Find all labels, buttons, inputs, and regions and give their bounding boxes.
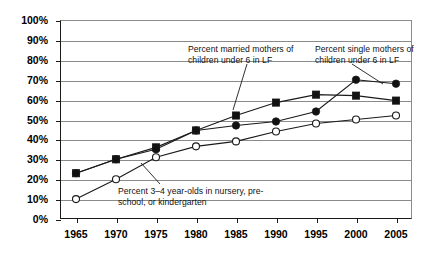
data-point-marker xyxy=(72,170,79,177)
x-tick-label: 1980 xyxy=(184,228,207,240)
x-tick-label: 1970 xyxy=(104,228,127,240)
y-tick-label: 80% xyxy=(27,54,48,66)
data-point-marker xyxy=(112,156,119,163)
data-point-marker xyxy=(313,120,320,127)
y-tick-label: 30% xyxy=(27,153,48,165)
x-tick-label: 2000 xyxy=(344,228,367,240)
y-tick-label: 20% xyxy=(27,173,48,185)
data-point-marker xyxy=(232,122,239,129)
x-tick-label: 1975 xyxy=(144,228,167,240)
data-point-marker xyxy=(233,138,240,145)
data-point-marker xyxy=(232,112,239,119)
data-point-marker xyxy=(353,116,360,123)
data-point-marker xyxy=(192,127,199,134)
y-tick-label: 0% xyxy=(33,213,48,225)
data-point-marker xyxy=(73,196,80,203)
data-point-marker xyxy=(312,91,319,98)
x-tick-label: 2005 xyxy=(384,228,407,240)
data-point-marker xyxy=(153,154,160,161)
annotation-single-mothers: Percent single mothers of children under… xyxy=(315,44,431,66)
data-point-marker xyxy=(113,176,120,183)
data-point-marker xyxy=(272,118,279,125)
data-point-marker xyxy=(393,112,400,119)
data-point-marker xyxy=(273,128,280,135)
x-tick-label: 1985 xyxy=(224,228,247,240)
annotation-nursery-preschool: Percent 3–4 year-olds in nursery, pre- s… xyxy=(118,186,298,208)
y-tick-label: 100% xyxy=(21,14,48,26)
y-tick-label: 60% xyxy=(27,94,48,106)
data-point-marker xyxy=(392,97,399,104)
y-tick-label: 10% xyxy=(27,193,48,205)
x-tick-label: 1995 xyxy=(304,228,327,240)
data-point-marker xyxy=(352,92,359,99)
data-point-marker xyxy=(272,99,279,106)
x-tick-label: 1965 xyxy=(64,228,87,240)
y-axis-labels: 0%10%20%30%40%50%60%70%80%90%100% xyxy=(0,20,56,219)
x-tick-label: 1990 xyxy=(264,228,287,240)
annotation-married-mothers: Percent married mothers of children unde… xyxy=(188,44,308,66)
data-point-marker xyxy=(392,80,399,87)
x-axis-labels: 196519701975198019851990199520002005 xyxy=(60,223,412,245)
y-tick-label: 90% xyxy=(27,34,48,46)
data-point-marker xyxy=(352,76,359,83)
chart-container: 0%10%20%30%40%50%60%70%80%90%100% 196519… xyxy=(0,0,433,257)
y-tick-label: 50% xyxy=(27,114,48,126)
data-point-marker xyxy=(193,143,200,150)
series-line-0 xyxy=(76,95,396,174)
y-tick-mark xyxy=(56,220,61,221)
y-tick-label: 70% xyxy=(27,74,48,86)
y-tick-label: 40% xyxy=(27,133,48,145)
data-point-marker xyxy=(312,108,319,115)
data-point-marker xyxy=(152,146,159,153)
